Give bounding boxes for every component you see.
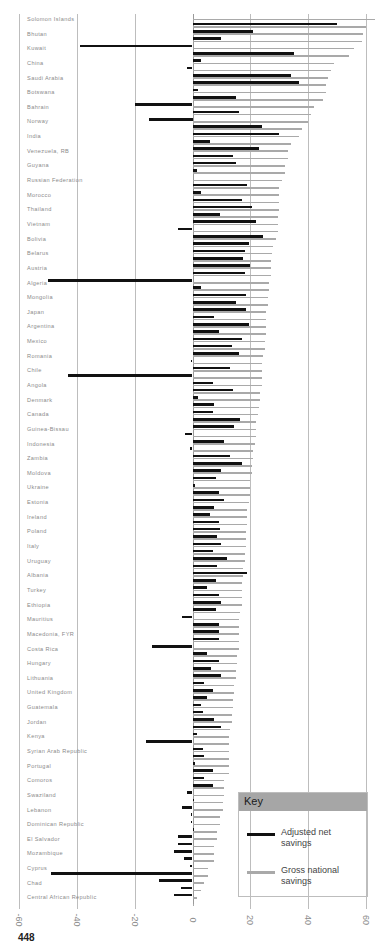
page-number: 448: [18, 932, 35, 943]
country-label: Syrian Arab Republic: [27, 748, 87, 755]
adjusted-net-savings-bar: [184, 857, 193, 860]
country-label: Jordan: [27, 719, 47, 726]
country-label: Poland: [27, 528, 47, 535]
gross-national-savings-bar: [193, 904, 194, 906]
gross-national-savings-bar: [193, 831, 218, 833]
gross-national-savings-bar: [193, 751, 229, 753]
country-label: United Kingdom: [27, 689, 72, 696]
gross-national-savings-bar: [193, 333, 267, 335]
gross-national-savings-bar: [193, 677, 236, 679]
gross-national-savings-bar: [193, 714, 232, 716]
country-label: Turkey: [27, 587, 46, 594]
gridline: [308, 14, 309, 909]
country-label: Portugal: [27, 763, 51, 770]
gross-national-savings-bar: [193, 758, 229, 760]
gross-national-savings-bar: [193, 509, 248, 511]
gross-national-savings-bar: [193, 414, 258, 416]
gross-national-savings-bar: [193, 875, 209, 877]
gross-national-savings-bar: [193, 787, 225, 789]
gross-national-savings-bar: [193, 84, 326, 86]
gross-national-savings-bar: [193, 458, 254, 460]
adjusted-net-savings-bar: [48, 279, 193, 282]
gridline: [19, 14, 20, 909]
country-label: Italy: [27, 543, 39, 550]
country-label: Argentina: [27, 323, 55, 330]
legend-label: Adjusted net savings: [281, 827, 363, 849]
gross-national-savings-bar: [193, 443, 255, 445]
gross-national-savings-bar: [193, 209, 280, 211]
country-label: Bhutan: [27, 31, 47, 38]
gross-national-savings-bar: [193, 494, 251, 496]
gross-national-savings-bar: [193, 890, 202, 892]
gross-national-savings-bar: [193, 531, 246, 533]
adjusted-net-savings-bar: [80, 45, 193, 48]
gross-national-savings-bar: [193, 604, 242, 606]
country-label: Canada: [27, 411, 49, 418]
gridline: [135, 14, 136, 909]
gross-national-savings-bar: [193, 472, 252, 474]
gross-national-savings-bar: [193, 355, 264, 357]
country-label: China: [27, 60, 44, 67]
gross-national-savings-bar: [193, 202, 280, 204]
gross-national-savings-bar: [193, 180, 283, 182]
country-label: Costa Rica: [27, 646, 58, 653]
gross-national-savings-bar: [193, 802, 223, 804]
country-label: Uruguay: [27, 558, 51, 565]
gross-national-savings-bar: [193, 582, 242, 584]
gross-national-savings-bar: [193, 429, 257, 431]
country-label: Mozambique: [27, 850, 63, 857]
country-label: Japan: [27, 309, 44, 316]
gross-national-savings-bar: [193, 319, 267, 321]
x-tick-label: 0: [188, 910, 198, 930]
gross-national-savings-bar: [193, 655, 238, 657]
country-label: Mexico: [27, 338, 47, 345]
gross-national-savings-bar: [193, 465, 252, 467]
country-label: Moldova: [27, 470, 51, 477]
gross-national-savings-bar: [193, 860, 215, 862]
gross-national-savings-bar: [193, 246, 274, 248]
gross-national-savings-bar: [193, 77, 329, 79]
gross-national-savings-bar: [193, 289, 270, 291]
adjusted-net-savings-bar: [182, 806, 192, 809]
country-label: Lithuania: [27, 675, 53, 682]
gross-national-savings-bar: [193, 670, 236, 672]
country-label: Denmark: [27, 397, 53, 404]
adjusted-net-savings-bar: [182, 616, 192, 619]
gross-national-savings-bar: [193, 70, 332, 72]
country-label: India: [27, 133, 41, 140]
adjusted-net-savings-bar: [185, 433, 192, 436]
gross-national-savings-bar: [193, 838, 218, 840]
gross-national-savings-bar: [193, 736, 229, 738]
gross-national-savings-bar: [193, 824, 220, 826]
country-label: Guyana: [27, 162, 49, 169]
gross-national-savings-bar: [193, 743, 229, 745]
gross-national-savings-bar: [193, 853, 215, 855]
gross-national-savings-bar: [193, 685, 235, 687]
gross-national-savings-bar: [193, 48, 355, 50]
gross-national-savings-bar: [193, 546, 246, 548]
gross-national-savings-bar: [193, 341, 265, 343]
adjusted-net-savings-bar: [174, 894, 193, 897]
gross-national-savings-bar: [193, 487, 251, 489]
gross-national-savings-bar: [193, 568, 244, 570]
gross-national-savings-bar: [193, 311, 267, 313]
country-label: Angola: [27, 382, 47, 389]
gross-national-savings-bar: [193, 106, 314, 108]
gross-national-savings-bar: [193, 692, 235, 694]
country-label: Austria: [27, 265, 47, 272]
country-label: Mauritius: [27, 616, 53, 623]
legend-header: Key: [239, 793, 367, 811]
country-label: Hungary: [27, 660, 51, 667]
gross-national-savings-bar: [193, 41, 362, 43]
x-tick-label: -20: [130, 910, 140, 930]
country-label: Bolivia: [27, 236, 46, 243]
country-label: Saudi Arabia: [27, 75, 64, 82]
gross-national-savings-bar: [193, 348, 265, 350]
adjusted-net-savings-bar: [135, 103, 193, 106]
gross-national-savings-bar: [193, 99, 323, 101]
country-label: Indonesia: [27, 441, 55, 448]
country-label: Swaziland: [27, 792, 56, 799]
gross-national-savings-bar: [193, 92, 326, 94]
country-label: Solomon Islands: [27, 16, 74, 23]
